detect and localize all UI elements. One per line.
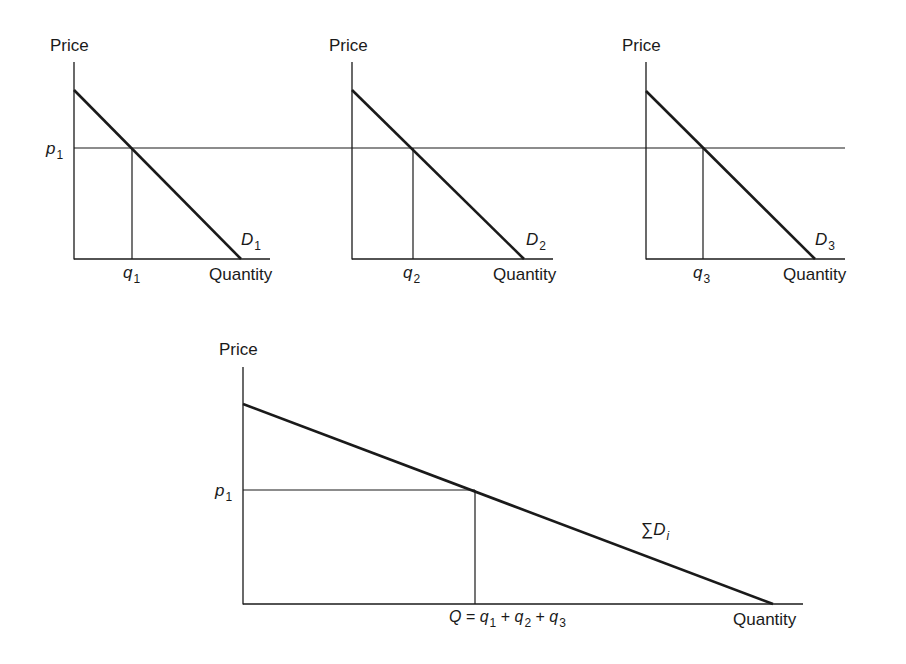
demand-var: D [653,520,665,539]
demand-curve-d3 [646,91,815,259]
market-quantity-sum-label: Q = q1 + q2 + q3 [449,609,566,625]
market-demand-curve [243,404,773,604]
price-var: p [215,481,224,500]
sub-2: 2 [524,616,531,630]
quantity-q2-label: q2 [403,264,420,281]
market-x-axis-label: Quantity [733,611,796,628]
demand-sub: 3 [828,239,835,253]
demand-d2-label: D2 [526,231,546,248]
quantity-sub: 1 [133,272,140,286]
quantity-var: q [693,263,702,282]
panel-3-y-axis-label: Price [622,37,661,54]
q-var: q [480,608,489,625]
demand-sub: i [666,529,669,543]
demand-var: D [526,230,538,249]
market-demand-sum-label: ∑Di [641,521,669,538]
quantity-var: q [123,263,132,282]
equals-sign: = [461,608,479,625]
price-sub: 1 [56,148,63,162]
market-panel-axes [243,367,803,605]
quantity-q3-label: q3 [693,264,710,281]
demand-curve-d1 [74,90,241,259]
panel-1-y-axis-label: Price [50,37,89,54]
demand-sub: 1 [254,239,261,253]
panel-3-x-axis-label: Quantity [783,266,846,283]
sigma-symbol: ∑ [641,520,653,539]
quantity-sub: 3 [703,272,710,286]
panel-2-y-axis-label: Price [329,37,368,54]
sub-3: 3 [559,616,566,630]
quantity-q1-label: q1 [123,264,140,281]
demand-d1-label: D1 [241,231,261,248]
demand-var: D [815,230,827,249]
diagram-canvas [0,0,906,664]
market-price-p1-label: p1 [215,482,232,499]
plus-sign: + [531,608,549,625]
demand-var: D [241,230,253,249]
demand-d3-label: D3 [815,231,835,248]
plus-sign: + [496,608,514,625]
sub-1: 1 [490,616,497,630]
price-var: p [46,139,55,158]
quantity-sub: 2 [413,272,420,286]
q-var: q [515,608,524,625]
market-y-axis-label: Price [219,341,258,358]
panel-1-x-axis-label: Quantity [209,266,272,283]
Q-var: Q [449,608,461,625]
price-p1-label: p1 [46,140,63,157]
panel-2-x-axis-label: Quantity [493,266,556,283]
demand-curve-d2 [352,90,524,259]
price-sub: 1 [225,490,232,504]
demand-sub: 2 [539,239,546,253]
quantity-var: q [403,263,412,282]
q-var: q [549,608,558,625]
panel-2-axes [352,62,553,260]
